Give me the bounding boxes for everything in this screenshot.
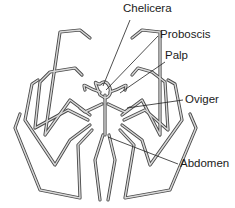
sea-spider-diagram: Chelicera Proboscis Palp Oviger Abdomen bbox=[0, 0, 235, 208]
label-chelicera: Chelicera bbox=[123, 3, 172, 15]
chelicera-leader bbox=[103, 20, 130, 86]
proboscis-leader bbox=[106, 36, 158, 90]
label-abdomen: Abdomen bbox=[180, 158, 229, 170]
label-oviger: Oviger bbox=[185, 94, 219, 106]
label-palp: Palp bbox=[165, 50, 188, 62]
label-proboscis: Proboscis bbox=[160, 29, 211, 41]
